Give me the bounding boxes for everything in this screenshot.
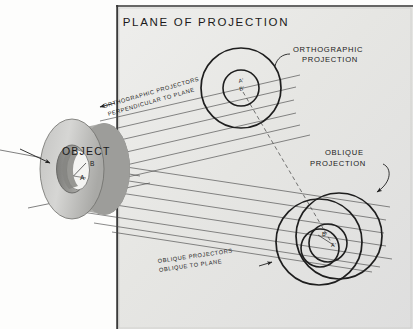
diagram-canvas: PLANE OF PROJECTION ORTHOGRAPHIC PROJECT… [0,0,413,329]
orthographic-projection-label-line2: PROJECTION [302,55,358,64]
orthographic-projection-label-line1: ORTHOGRAPHIC [293,45,363,54]
oblique-point-b: B' [322,231,327,237]
plane-of-projection [116,5,413,329]
object-label: OBJECT [62,145,111,157]
object-point-a: A [80,174,85,181]
oblique-projection-label-line1: OBLIQUE [325,148,364,157]
projection-diagram: PLANE OF PROJECTION ORTHOGRAPHIC PROJECT… [0,0,413,329]
oblique-projection-label-line2: PROJECTION [310,159,366,168]
oblique-point-a: A' [331,242,336,248]
object-solid [40,119,130,219]
plane-title: PLANE OF PROJECTION [123,16,290,28]
object-point-b: B [90,160,95,167]
